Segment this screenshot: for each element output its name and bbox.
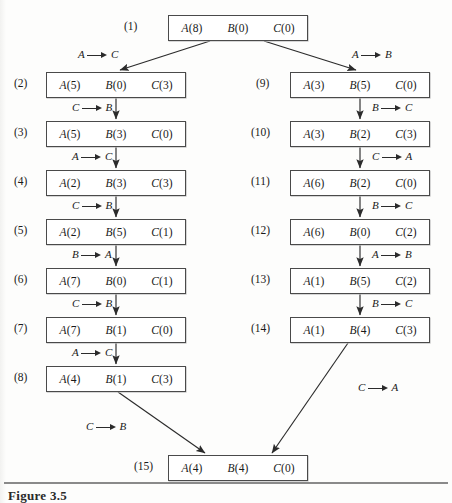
transition-from-token: B [372, 297, 379, 309]
process-counter-cell: B(3) [93, 128, 139, 140]
transition-from-token: C [72, 297, 80, 309]
state-node: A(6)B(2)C(0) [290, 170, 430, 196]
node-index-label: (14) [251, 322, 270, 334]
state-node: A(7)B(0)C(1) [46, 268, 186, 294]
process-counter-cell: A(3) [291, 128, 337, 140]
transition-to-token: C [105, 150, 113, 162]
process-counter-cell: B(2) [337, 177, 383, 189]
process-counter-cell: A(3) [291, 79, 337, 91]
node-index-label: (2) [14, 77, 27, 89]
state-node: A(6)B(0)C(2) [290, 219, 430, 245]
process-counter-cell: C(0) [139, 128, 185, 140]
process-counter-cell: C(2) [383, 275, 429, 287]
arrow-right-icon [361, 51, 383, 59]
node-index-label: (7) [14, 322, 27, 334]
transition-label: AB [352, 48, 392, 60]
state-node: A(4)B(1)C(3) [46, 366, 186, 392]
state-node: A(4)B(4)C(0) [168, 455, 308, 481]
caption-rule [4, 482, 448, 484]
state-node: A(7)B(1)C(0) [46, 317, 186, 343]
arrow-right-icon [82, 202, 104, 210]
transition-to-token: B [106, 199, 113, 211]
process-counter-cell: C(0) [261, 22, 307, 34]
transition-to-token: C [405, 199, 413, 211]
transition-edge [120, 41, 210, 70]
process-counter-cell: B(0) [93, 275, 139, 287]
process-counter-cell: C(0) [139, 324, 185, 336]
process-counter-cell: A(2) [47, 226, 93, 238]
state-node: A(5)B(0)C(3) [46, 72, 186, 98]
state-node: A(3)B(5)C(0) [290, 72, 430, 98]
process-counter-cell: B(1) [93, 324, 139, 336]
transition-edge [264, 41, 356, 70]
process-counter-cell: A(6) [291, 226, 337, 238]
transition-from-token: A [372, 248, 379, 260]
process-counter-cell: A(8) [169, 22, 215, 34]
state-node: A(1)B(5)C(2) [290, 268, 430, 294]
node-index-label: (8) [14, 371, 27, 383]
node-index-label: (5) [14, 224, 27, 236]
transition-label: CB [72, 101, 112, 113]
state-node: A(8)B(0)C(0) [168, 15, 308, 41]
figure-caption: Figure 3.5 [8, 488, 67, 503]
transition-to-token: A [406, 150, 413, 162]
transition-to-token: B [106, 101, 113, 113]
transition-to-token: C [405, 297, 413, 309]
process-counter-cell: A(1) [291, 324, 337, 336]
process-counter-cell: A(7) [47, 324, 93, 336]
transition-label: AC [72, 150, 112, 162]
process-counter-cell: B(4) [215, 462, 261, 474]
process-counter-cell: B(1) [93, 373, 139, 385]
node-index-label: (6) [14, 273, 27, 285]
transition-label: AC [72, 346, 112, 358]
transition-from-token: B [372, 199, 379, 211]
arrow-right-icon [82, 300, 104, 308]
transition-to-token: C [111, 48, 119, 60]
process-counter-cell: C(0) [383, 79, 429, 91]
transition-from-token: C [372, 150, 380, 162]
transition-label: CB [72, 297, 112, 309]
state-node: A(2)B(3)C(3) [46, 170, 186, 196]
arrow-right-icon [381, 104, 403, 112]
transition-to-token: C [405, 101, 413, 113]
arrow-right-icon [368, 384, 390, 392]
state-node: A(2)B(5)C(1) [46, 219, 186, 245]
transition-to-token: B [385, 48, 392, 60]
process-counter-cell: C(3) [139, 79, 185, 91]
transition-label: CB [86, 420, 126, 432]
transition-to-token: B [120, 420, 127, 432]
node-index-label: (13) [251, 273, 270, 285]
transition-label: CA [372, 150, 412, 162]
arrow-right-icon [381, 251, 403, 259]
process-counter-cell: C(3) [139, 373, 185, 385]
transition-label: BC [372, 297, 412, 309]
transition-from-token: A [72, 346, 79, 358]
arrow-right-icon [382, 153, 404, 161]
node-index-label: (3) [14, 126, 27, 138]
process-counter-cell: C(0) [261, 462, 307, 474]
transition-label: CB [72, 199, 112, 211]
process-counter-cell: C(2) [383, 226, 429, 238]
arrow-right-icon [96, 423, 118, 431]
process-counter-cell: B(3) [93, 177, 139, 189]
process-counter-cell: C(3) [383, 128, 429, 140]
transition-edge [272, 343, 348, 453]
transition-from-token: C [86, 420, 94, 432]
node-index-label: (15) [134, 460, 153, 472]
process-counter-cell: B(2) [337, 128, 383, 140]
transition-label: AB [372, 248, 412, 260]
transition-label: AC [78, 48, 118, 60]
process-counter-cell: B(0) [337, 226, 383, 238]
transition-from-token: A [78, 48, 85, 60]
process-counter-cell: A(5) [47, 79, 93, 91]
transition-from-token: B [372, 101, 379, 113]
arrow-right-icon [81, 153, 103, 161]
process-counter-cell: A(5) [47, 128, 93, 140]
transition-to-token: A [392, 381, 399, 393]
transition-to-token: B [405, 248, 412, 260]
process-counter-cell: A(7) [47, 275, 93, 287]
transition-from-token: C [72, 101, 80, 113]
arrow-right-icon [81, 251, 103, 259]
state-node: A(5)B(3)C(0) [46, 121, 186, 147]
node-index-label: (11) [251, 175, 270, 187]
